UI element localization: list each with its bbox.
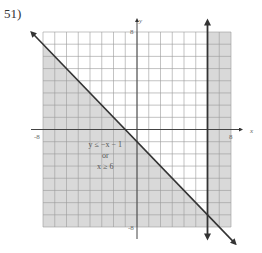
tick-x-max: 8 bbox=[229, 133, 233, 141]
annotation-line-1: y ≤ −x − 1 bbox=[89, 140, 122, 149]
inequality-graph: xy-888-8y ≤ −x − 1orx ≥ 6 bbox=[0, 0, 262, 253]
x-axis-label: x bbox=[249, 127, 254, 135]
y-axis-label: y bbox=[138, 17, 143, 25]
annotation-line-3: x ≥ 6 bbox=[97, 162, 113, 171]
tick-y-min: -8 bbox=[128, 224, 134, 232]
tick-y-max: 8 bbox=[130, 28, 134, 36]
annotation-line-2: or bbox=[102, 151, 109, 160]
tick-x-min: -8 bbox=[34, 133, 40, 141]
